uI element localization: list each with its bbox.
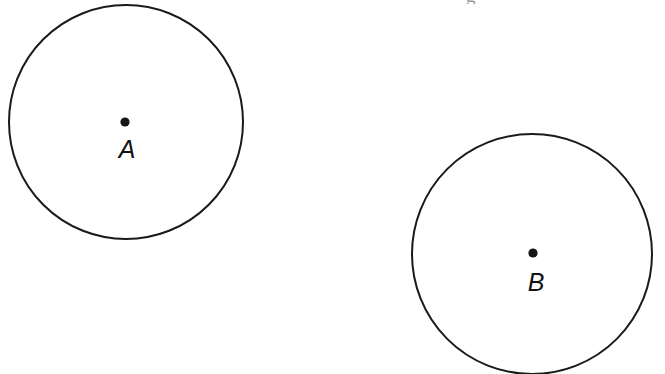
circle-b-center-dot bbox=[528, 248, 537, 257]
figure-canvas: g A B bbox=[0, 0, 665, 374]
circle-a-label: A bbox=[117, 135, 136, 163]
circle-b-label: B bbox=[528, 268, 545, 296]
circle-group-b: B bbox=[412, 134, 652, 374]
geometry-figure: A B bbox=[0, 0, 665, 374]
circle-group-a: A bbox=[9, 5, 243, 239]
circle-a-center-dot bbox=[120, 117, 129, 126]
